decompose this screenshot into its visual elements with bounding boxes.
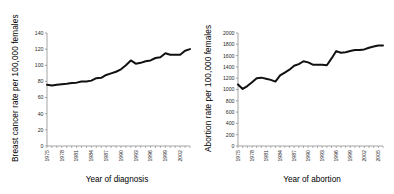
breast-cancer-x-tick-label: 1999 [162,150,168,162]
breast-cancer-x-tick-label: 1990 [118,150,124,162]
breast-cancer-x-tick-label-group: 1981 [73,150,79,162]
breast-cancer-y-tick-label: 100 [35,62,44,68]
x-axis-title-left: Year of diagnosis [42,176,192,184]
breast-cancer-y-tick-label: 120 [35,46,44,52]
two-panel-figure: Breast cancer rate per 100,000 females 0… [0,0,394,194]
abortion-x-tick-label: 1993 [319,150,325,162]
abortion-y-tick-label: 0 [232,143,235,149]
abortion-y-tick-label: 200 [226,132,235,138]
abortion-x-tick-label: 1990 [305,150,311,162]
abortion-x-tick-label: 1999 [347,150,353,162]
abortion-x-tick-label: 1981 [263,150,269,162]
abortion-y-tick-label: 1200 [223,75,235,81]
abortion-y-tick-label: 1000 [223,86,235,92]
abortion-x-tick-label: 2005 [375,150,381,162]
abortion-x-tick-label: 1984 [277,150,283,162]
abortion-x-tick-label: 1975 [235,150,241,162]
abortion-x-tick-label-group: 1990 [305,150,311,162]
abortion-y-tick-label: 2000 [223,30,235,36]
breast-cancer-panel: Breast cancer rate per 100,000 females 0… [0,0,197,194]
abortion-x-tick-label-group: 1978 [249,150,255,162]
abortion-y-tick-label: 800 [226,98,235,104]
breast-cancer-x-tick-label: 1993 [133,150,139,162]
breast-cancer-x-tick-label-group: 2002 [177,150,183,162]
abortion-x-tick-label: 1978 [249,150,255,162]
abortion-x-tick-label-group: 1999 [347,150,353,162]
abortion-x-tick-label: 1996 [333,150,339,162]
abortion-y-tick-label: 600 [226,109,235,115]
breast-cancer-x-tick-label-group: 1984 [88,150,94,162]
abortion-x-tick-label-group: 1993 [319,150,325,162]
breast-cancer-x-tick-label-group: 1990 [118,150,124,162]
breast-cancer-x-tick-label: 1975 [44,150,50,162]
abortion-panel: Abortion rate per 100,000 females 020040… [197,0,394,194]
abortion-x-tick-label-group: 2002 [361,150,367,162]
breast-cancer-data-line [47,49,190,85]
breast-cancer-x-tick-label: 1984 [88,150,94,162]
breast-cancer-x-tick-label: 1987 [103,150,109,162]
abortion-y-tick-label: 400 [226,120,235,126]
breast-cancer-x-tick-label-group: 1996 [147,150,153,162]
abortion-plot: 0200400600800100012001400160018002000197… [197,0,394,194]
breast-cancer-y-tick-label: 20 [38,127,44,133]
breast-cancer-x-tick-label-group: 1999 [162,150,168,162]
breast-cancer-y-tick-label: 40 [38,111,44,117]
abortion-y-tick-label: 1800 [223,41,235,47]
breast-cancer-y-tick-label: 60 [38,94,44,100]
breast-cancer-x-tick-label-group: 1987 [103,150,109,162]
abortion-x-tick-label-group: 1984 [277,150,283,162]
breast-cancer-x-tick-label-group: 1993 [133,150,139,162]
abortion-x-tick-label-group: 1981 [263,150,269,162]
breast-cancer-plot: 0204060801001201401975197819811984198719… [0,0,197,194]
breast-cancer-y-tick-label: 140 [35,30,44,36]
abortion-data-line [238,45,383,89]
breast-cancer-x-tick-label-group: 1978 [59,150,65,162]
abortion-y-tick-label: 1600 [223,53,235,59]
abortion-x-tick-label-group: 1987 [291,150,297,162]
breast-cancer-x-tick-label: 1996 [147,150,153,162]
abortion-x-tick-label: 1987 [291,150,297,162]
abortion-x-tick-label-group: 1975 [235,150,241,162]
x-axis-title-right: Year of abortion [237,176,387,184]
breast-cancer-y-tick-label: 80 [38,78,44,84]
abortion-x-tick-label-group: 1996 [333,150,339,162]
breast-cancer-x-tick-label: 1978 [59,150,65,162]
abortion-x-tick-label-group: 2005 [375,150,381,162]
breast-cancer-x-tick-label-group: 1975 [44,150,50,162]
abortion-x-tick-label: 2002 [361,150,367,162]
breast-cancer-y-tick-label: 0 [41,143,44,149]
breast-cancer-x-tick-label: 2002 [177,150,183,162]
abortion-y-tick-label: 1400 [223,64,235,70]
breast-cancer-x-tick-label: 1981 [73,150,79,162]
